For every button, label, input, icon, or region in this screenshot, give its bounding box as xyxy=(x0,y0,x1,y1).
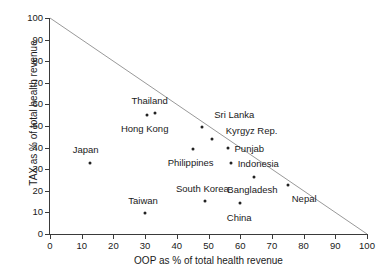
data-point-label: Hong Kong xyxy=(121,124,169,134)
x-tick xyxy=(177,234,178,239)
x-tick-label: 40 xyxy=(172,241,183,251)
x-tick xyxy=(82,234,83,239)
y-tick xyxy=(45,126,50,127)
data-point-label: Taiwan xyxy=(128,197,158,207)
data-point-label: Bangladesh xyxy=(227,185,277,195)
x-tick-label: 0 xyxy=(47,241,52,251)
data-point-label: Philippines xyxy=(168,158,214,168)
scatter-chart: 0102030405060708090100 01020304050607080… xyxy=(0,0,383,279)
x-tick xyxy=(335,234,336,239)
data-point xyxy=(144,212,147,215)
x-tick-label: 90 xyxy=(330,241,341,251)
x-tick-label: 70 xyxy=(267,241,278,251)
x-tick xyxy=(113,234,114,239)
x-tick-label: 50 xyxy=(203,241,214,251)
data-point xyxy=(239,201,242,204)
x-tick-label: 30 xyxy=(140,241,151,251)
data-point xyxy=(191,147,194,150)
y-tick xyxy=(45,40,50,41)
data-point-label: Kyrgyz Rep. xyxy=(226,126,278,136)
x-tick xyxy=(209,234,210,239)
data-point-label: Indonesia xyxy=(238,159,279,169)
data-point-label: China xyxy=(227,213,252,223)
data-point xyxy=(204,199,207,202)
x-tick xyxy=(50,234,51,239)
data-point-label: Japan xyxy=(73,145,99,155)
data-point xyxy=(201,126,204,129)
y-tick xyxy=(45,104,50,105)
data-point xyxy=(145,114,148,117)
data-point xyxy=(229,161,232,164)
y-tick xyxy=(45,191,50,192)
data-point xyxy=(253,175,256,178)
plot-area: 0102030405060708090100 01020304050607080… xyxy=(50,18,367,234)
data-point xyxy=(226,146,229,149)
y-axis-title: TAX as % of total health revenue xyxy=(29,13,39,213)
x-axis-title: OOP as % of total health revenue xyxy=(50,256,367,266)
x-tick xyxy=(145,234,146,239)
y-tick xyxy=(45,83,50,84)
x-tick xyxy=(367,234,368,239)
x-tick-label: 60 xyxy=(235,241,246,251)
data-point xyxy=(286,184,289,187)
data-point-label: Sri Lanka xyxy=(214,110,254,120)
x-tick xyxy=(304,234,305,239)
x-tick xyxy=(240,234,241,239)
x-tick-label: 10 xyxy=(76,241,87,251)
data-point xyxy=(153,112,156,115)
y-tick xyxy=(45,212,50,213)
diagonal-reference-line xyxy=(50,18,367,234)
data-point-label: South Korea xyxy=(176,184,229,194)
y-tick xyxy=(45,18,50,19)
data-point xyxy=(88,161,91,164)
y-tick-label: 0 xyxy=(38,229,43,239)
data-point-label: Nepal xyxy=(292,195,317,205)
x-tick xyxy=(272,234,273,239)
x-tick-label: 80 xyxy=(298,241,309,251)
data-point-label: Punjab xyxy=(235,144,265,154)
x-tick-label: 20 xyxy=(108,241,119,251)
x-tick-label: 100 xyxy=(359,241,375,251)
y-tick xyxy=(45,169,50,170)
y-tick xyxy=(45,148,50,149)
data-point-label: Thailand xyxy=(131,96,167,106)
y-tick xyxy=(45,61,50,62)
data-point xyxy=(210,137,213,140)
